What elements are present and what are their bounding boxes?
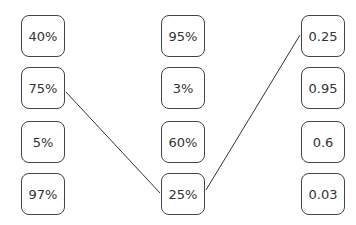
left-item-4[interactable]: 97% (21, 173, 65, 215)
left-item-1[interactable]: 40% (21, 15, 65, 57)
item-label: 25% (169, 187, 198, 202)
item-label: 97% (29, 187, 58, 202)
item-label: 95% (169, 29, 198, 44)
left-item-2[interactable]: 75% (21, 67, 65, 109)
item-label: 40% (29, 29, 58, 44)
item-label: 0.6 (313, 135, 334, 150)
connector-75pct-to-25pct (66, 92, 160, 193)
left-item-3[interactable]: 5% (21, 121, 65, 163)
right-item-2[interactable]: 0.95 (301, 67, 345, 109)
item-label: 0.03 (309, 187, 338, 202)
right-item-4[interactable]: 0.03 (301, 173, 345, 215)
middle-item-2[interactable]: 3% (161, 67, 205, 109)
item-label: 0.25 (309, 29, 338, 44)
item-label: 75% (29, 81, 58, 96)
connector-25pct-to-0.25 (206, 35, 300, 190)
middle-item-1[interactable]: 95% (161, 15, 205, 57)
right-item-1[interactable]: 0.25 (301, 15, 345, 57)
item-label: 60% (169, 135, 198, 150)
right-item-3[interactable]: 0.6 (301, 121, 345, 163)
item-label: 0.95 (309, 81, 338, 96)
middle-item-4[interactable]: 25% (161, 173, 205, 215)
middle-item-3[interactable]: 60% (161, 121, 205, 163)
item-label: 3% (173, 81, 194, 96)
item-label: 5% (33, 135, 54, 150)
